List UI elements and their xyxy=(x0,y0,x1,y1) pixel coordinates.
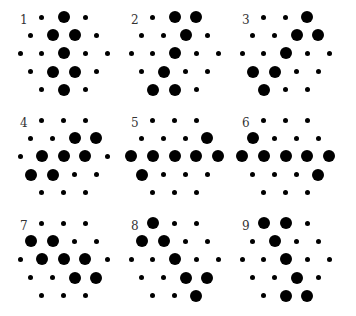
small-dot xyxy=(129,257,134,262)
large-dot xyxy=(69,66,81,78)
large-dot xyxy=(25,169,37,181)
small-dot xyxy=(139,33,144,38)
small-dot xyxy=(150,293,155,298)
small-dot xyxy=(83,118,88,123)
small-dot xyxy=(150,190,155,195)
large-dot xyxy=(247,66,259,78)
small-dot xyxy=(205,69,210,74)
large-dot xyxy=(47,29,59,41)
small-dot xyxy=(294,239,299,244)
small-dot xyxy=(261,190,266,195)
small-dot xyxy=(18,51,23,56)
large-dot xyxy=(280,150,292,162)
small-dot xyxy=(39,15,44,20)
pattern-panel-5: 5 xyxy=(131,117,243,217)
small-dot xyxy=(205,239,210,244)
small-dot xyxy=(194,118,199,123)
large-dot xyxy=(90,272,102,284)
small-dot xyxy=(316,136,321,141)
small-dot xyxy=(28,275,33,280)
small-dot xyxy=(194,257,199,262)
large-dot xyxy=(201,132,213,144)
small-dot xyxy=(161,172,166,177)
large-dot xyxy=(312,169,324,181)
panel-label: 9 xyxy=(242,220,250,232)
pattern-panel-2: 2 xyxy=(131,14,243,114)
small-dot xyxy=(183,239,188,244)
large-dot xyxy=(258,217,270,229)
small-dot xyxy=(305,257,310,262)
small-dot xyxy=(18,154,23,159)
small-dot xyxy=(261,51,266,56)
small-dot xyxy=(50,136,55,141)
small-dot xyxy=(150,15,155,20)
small-dot xyxy=(61,190,66,195)
small-dot xyxy=(272,136,277,141)
large-dot xyxy=(90,132,102,144)
small-dot xyxy=(316,275,321,280)
small-dot xyxy=(250,275,255,280)
small-dot xyxy=(28,33,33,38)
small-dot xyxy=(129,51,134,56)
small-dot xyxy=(39,87,44,92)
small-dot xyxy=(161,33,166,38)
small-dot xyxy=(83,293,88,298)
large-dot xyxy=(301,11,313,23)
large-dot xyxy=(47,235,59,247)
small-dot xyxy=(283,87,288,92)
small-dot xyxy=(28,136,33,141)
large-dot xyxy=(25,235,37,247)
large-dot xyxy=(280,217,292,229)
panel-label: 7 xyxy=(20,220,28,232)
large-dot xyxy=(169,11,181,23)
large-dot xyxy=(258,84,270,96)
small-dot xyxy=(305,51,310,56)
large-dot xyxy=(269,66,281,78)
small-dot xyxy=(39,51,44,56)
small-dot xyxy=(94,33,99,38)
small-dot xyxy=(150,118,155,123)
small-dot xyxy=(250,33,255,38)
small-dot xyxy=(105,154,110,159)
large-dot xyxy=(301,150,313,162)
panel-label: 8 xyxy=(131,220,139,232)
large-dot xyxy=(201,272,213,284)
small-dot xyxy=(316,69,321,74)
small-dot xyxy=(283,118,288,123)
large-dot xyxy=(36,253,48,265)
panel-label: 5 xyxy=(131,117,139,129)
large-dot xyxy=(58,84,70,96)
small-dot xyxy=(250,172,255,177)
pattern-panel-8: 8 xyxy=(131,220,243,316)
small-dot xyxy=(194,51,199,56)
small-dot xyxy=(272,172,277,177)
small-dot xyxy=(194,190,199,195)
panel-label: 1 xyxy=(20,14,28,26)
small-dot xyxy=(261,257,266,262)
small-dot xyxy=(250,239,255,244)
small-dot xyxy=(194,87,199,92)
large-dot xyxy=(158,235,170,247)
large-dot xyxy=(69,272,81,284)
large-dot xyxy=(158,66,170,78)
large-dot xyxy=(236,150,248,162)
small-dot xyxy=(183,136,188,141)
large-dot xyxy=(247,132,259,144)
small-dot xyxy=(183,69,188,74)
small-dot xyxy=(94,69,99,74)
pattern-panel-1: 1 xyxy=(20,14,132,114)
small-dot xyxy=(105,51,110,56)
pattern-panel-7: 7 xyxy=(20,220,132,316)
small-dot xyxy=(305,87,310,92)
small-dot xyxy=(183,172,188,177)
large-dot xyxy=(180,272,192,284)
small-dot xyxy=(83,51,88,56)
small-dot xyxy=(139,136,144,141)
large-dot xyxy=(190,290,202,302)
large-dot xyxy=(169,84,181,96)
large-dot xyxy=(69,29,81,41)
large-dot xyxy=(69,132,81,144)
small-dot xyxy=(39,221,44,226)
small-dot xyxy=(161,275,166,280)
large-dot xyxy=(180,29,192,41)
